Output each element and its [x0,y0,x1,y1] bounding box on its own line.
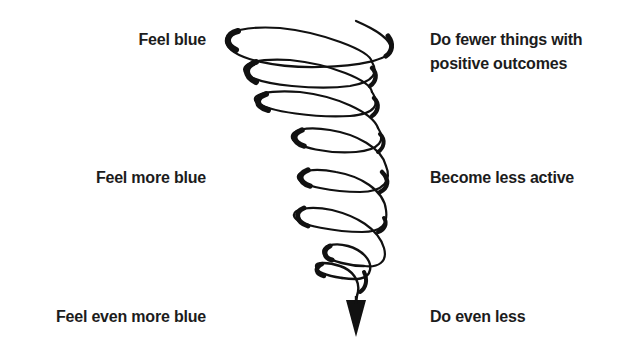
left-label-feel-more-blue: Feel more blue [96,166,206,190]
right-label-do-fewer-things: Do fewer things with positive outcomes [430,28,582,76]
left-label-feel-blue: Feel blue [138,28,206,52]
right-label-line-2: positive outcomes [430,52,582,76]
spiral-loop-6 [294,208,387,266]
left-label-feel-even-more-blue: Feel even more blue [56,305,206,329]
arrow-down-icon [346,300,366,337]
spiral-loop-3 [255,91,378,128]
right-label-line-1: Do fewer things with [430,28,582,52]
right-label-become-less-active: Become less active [430,166,574,190]
spiral-loop-1 [226,21,391,67]
right-label-do-even-less: Do even less [430,305,525,329]
